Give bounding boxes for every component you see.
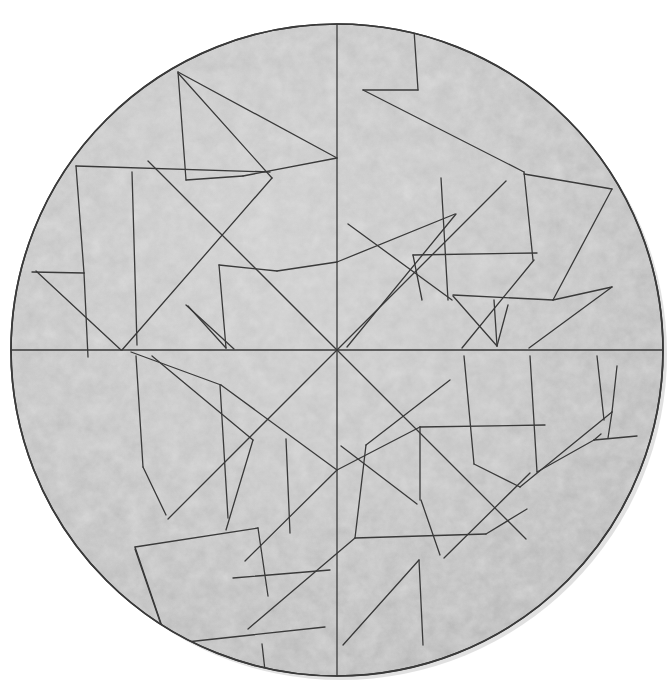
figure-root: Fig. 1 A circle cut into straight-sided … [0,0,671,698]
circle-dissection-diagram [0,0,671,698]
